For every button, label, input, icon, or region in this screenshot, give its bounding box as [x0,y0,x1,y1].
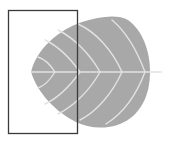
leaf-illustration: leaf [0,0,170,141]
